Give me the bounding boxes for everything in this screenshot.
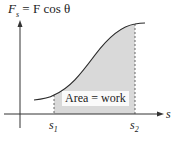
s2-sub: 2 <box>135 125 139 134</box>
x-axis-label: s <box>166 107 171 122</box>
area-label: Area = work <box>62 91 129 106</box>
y-axis-arrow-icon <box>18 20 23 27</box>
y-axis-title: Fs = F cos θ <box>8 1 70 19</box>
equals-sign: = <box>19 1 33 16</box>
work-diagram <box>0 0 173 148</box>
force-symbol: F <box>8 1 16 16</box>
x-axis-arrow-icon <box>157 112 164 117</box>
s2-label: s2 <box>130 118 139 134</box>
s1-label: s1 <box>49 118 58 134</box>
force-expression: F cos θ <box>33 1 70 16</box>
s1-sub: 1 <box>54 125 58 134</box>
